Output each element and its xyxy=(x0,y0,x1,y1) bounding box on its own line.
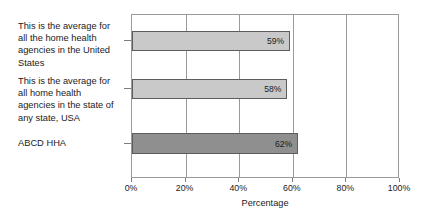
plot-area: 59% 58% 62% xyxy=(131,14,399,178)
bar-value-label: 59% xyxy=(267,36,289,46)
category-label: This is the average for all home health … xyxy=(0,75,124,124)
xtick-label: 80% xyxy=(337,183,355,193)
category-label: This is the average for all the home hea… xyxy=(0,20,124,69)
category-tick-mark xyxy=(124,88,131,89)
x-axis-title: Percentage xyxy=(131,198,399,208)
category-label-group: This is the average for all the home hea… xyxy=(0,0,124,222)
xtick-mark xyxy=(292,178,293,182)
bar-value-label: 62% xyxy=(275,139,297,149)
xtick-mark xyxy=(399,178,400,182)
bar-series-0: 59% xyxy=(132,31,290,51)
bar-series-2: 62% xyxy=(132,133,298,154)
category-label: ABCD HHA xyxy=(0,137,124,149)
bar-value-label: 58% xyxy=(264,84,286,94)
xtick-mark xyxy=(131,178,132,182)
category-tick-mark xyxy=(124,40,131,41)
bar-series-1: 58% xyxy=(132,79,287,99)
xtick-label: 40% xyxy=(229,183,247,193)
xtick-mark xyxy=(238,178,239,182)
xtick-label: 20% xyxy=(176,183,194,193)
xtick-mark xyxy=(185,178,186,182)
bar-chart: This is the average for all the home hea… xyxy=(0,0,434,222)
gridline-80 xyxy=(346,15,347,177)
xtick-label: 0% xyxy=(125,183,138,193)
xtick-label: 60% xyxy=(283,183,301,193)
xtick-label: 100% xyxy=(388,183,411,193)
category-tick-mark xyxy=(124,143,131,144)
xtick-mark xyxy=(345,178,346,182)
